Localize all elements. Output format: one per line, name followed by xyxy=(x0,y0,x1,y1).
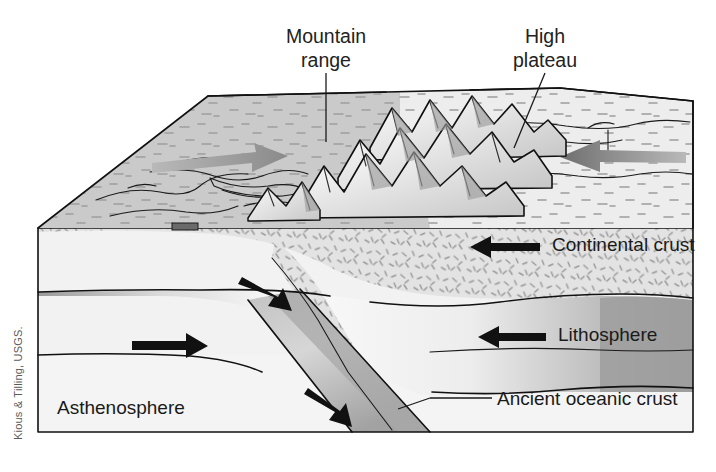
ledge-marker xyxy=(172,223,198,230)
high-plateau-label-line1: High xyxy=(525,25,565,47)
geology-block-diagram: Mountain range High plateau Continental … xyxy=(0,0,716,472)
continental-crust-label: Continental crust xyxy=(552,234,695,255)
mountain-range-label-line2: range xyxy=(301,49,351,71)
diagram-canvas: Mountain range High plateau Continental … xyxy=(0,0,716,472)
mountain-range-label-line1: Mountain xyxy=(286,25,366,47)
high-plateau-label-line2: plateau xyxy=(513,49,577,71)
asthenosphere-label: Asthenosphere xyxy=(57,397,185,418)
ancient-oceanic-crust-label: Ancient oceanic crust xyxy=(497,388,678,409)
lithosphere-label: Lithosphere xyxy=(558,324,657,345)
credit-attribution: Kious & Tilling, USGS. xyxy=(12,326,24,440)
